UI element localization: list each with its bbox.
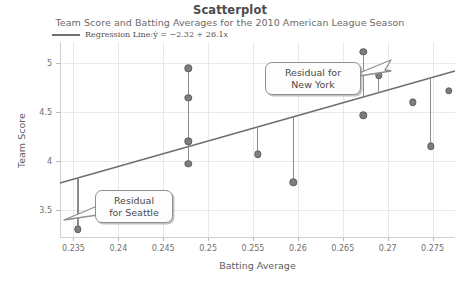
x-tick-label: 0.26	[289, 244, 307, 253]
x-tick-label: 0.265	[331, 244, 354, 253]
residual-segment	[293, 117, 294, 183]
legend: Regression Line:ŷ = −2.32 + 26.1x	[52, 30, 228, 39]
regression-line-swatch-icon	[52, 34, 80, 36]
x-tick-label: 0.235	[62, 244, 85, 253]
chart-title: Scatterplot	[0, 3, 460, 17]
legend-equation-x: x	[224, 30, 229, 39]
legend-equation-rest: = −2.32 + 26.1	[158, 30, 224, 39]
legend-regression-text: Regression Line:	[85, 30, 153, 39]
y-tick-label: 4	[47, 156, 52, 165]
y-tick-label: 4.5	[39, 108, 52, 117]
x-tick-label: 0.24	[109, 244, 127, 253]
x-tick-label: 0.27	[379, 244, 397, 253]
annotation-residual-new-york: Residual for New York	[265, 62, 361, 95]
annotation-residual-seattle: Residual for Seattle	[95, 190, 173, 223]
chart-subtitle: Team Score and Batting Averages for the …	[0, 17, 460, 28]
x-axis-line	[60, 237, 455, 238]
x-tick-label: 0.275	[421, 244, 444, 253]
legend-label-regression: Regression Line:ŷ = −2.32 + 26.1x	[85, 30, 228, 39]
x-tick-label: 0.255	[242, 244, 265, 253]
residual-segment	[430, 78, 431, 146]
y-tick-label: 5	[47, 59, 52, 68]
x-tick-label: 0.245	[152, 244, 175, 253]
x-tick-label: 0.25	[199, 244, 217, 253]
scatterplot-figure: Scatterplot Team Score and Batting Avera…	[0, 0, 460, 282]
y-axis-title: Team Score	[16, 113, 27, 168]
x-axis-title: Batting Average	[60, 260, 455, 271]
y-tick-label: 3.5	[39, 205, 52, 214]
